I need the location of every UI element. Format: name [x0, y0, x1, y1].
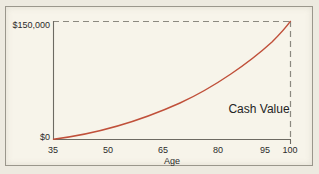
y-axis-tick-label-min: $0	[6, 133, 50, 142]
y-axis-tick-label-max: $150,000	[6, 21, 50, 30]
cash-value-annotation: Cash Value	[216, 103, 302, 115]
x-axis-tick-label-80: 80	[205, 146, 231, 155]
chart-screenshot: $150,000 $0 35 50 65 80 95 100 Age Cash …	[0, 0, 319, 174]
x-axis-tick-label-65: 65	[150, 146, 176, 155]
x-axis-title: Age	[53, 157, 291, 166]
x-axis-tick-label-100: 100	[277, 146, 303, 155]
x-axis-tick-label-50: 50	[95, 146, 121, 155]
x-axis-tick-label-35: 35	[40, 146, 66, 155]
cash-value-curve	[54, 21, 291, 139]
x-axis-tick-label-95: 95	[252, 146, 278, 155]
